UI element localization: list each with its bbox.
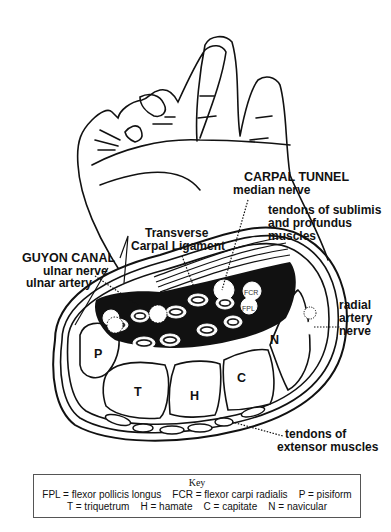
bone-label-navicular: N xyxy=(270,334,279,347)
fpl-label: FPL xyxy=(242,302,255,315)
bone-label-pisiform: P xyxy=(94,348,102,361)
fcr-label: FCR xyxy=(244,286,258,299)
bone-capitate xyxy=(223,349,274,410)
key-row-2: T = triquetrum H = hamate C = capitate N… xyxy=(34,501,360,513)
thumb xyxy=(125,126,142,142)
bone-label-hamate: H xyxy=(190,390,199,403)
key-title: Key xyxy=(34,475,360,489)
key-row-1: FPL = flexor pollicis longus FCR = flexo… xyxy=(34,489,360,501)
bone-label-capitate: C xyxy=(237,372,246,385)
bone-label-triquetrum: T xyxy=(134,386,142,399)
tendons-sublimis-label-3: muscles xyxy=(268,230,316,243)
key-box: Key FPL = flexor pollicis longus FCR = f… xyxy=(33,474,361,518)
nerve-label: nerve xyxy=(339,325,371,338)
transverse-ligament-label-2: Carpal Ligament xyxy=(131,240,225,253)
ulnar-artery-label: ulnar artery xyxy=(26,277,92,290)
median-nerve-label: median nerve xyxy=(233,184,310,197)
extensor-tendons-label-2: extensor muscles xyxy=(277,441,378,454)
